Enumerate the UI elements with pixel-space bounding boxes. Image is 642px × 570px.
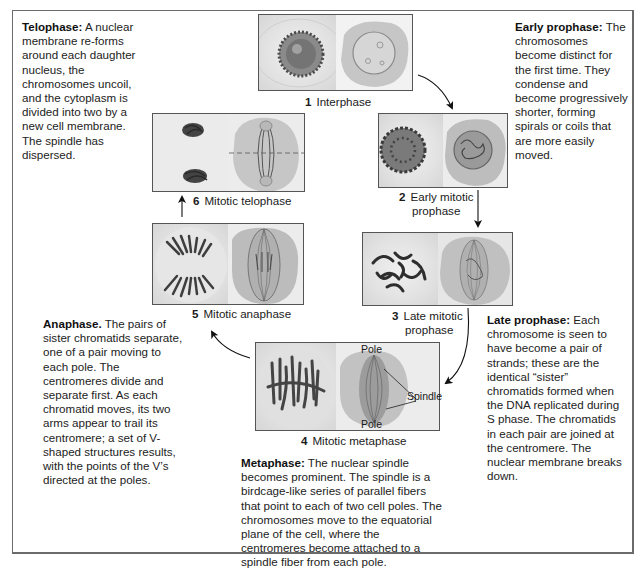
arrow-1-to-2 — [418, 75, 452, 108]
arrow-4-to-5 — [212, 332, 250, 358]
arrow-3-to-4 — [446, 308, 469, 383]
